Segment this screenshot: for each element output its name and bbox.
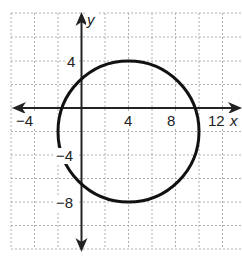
x-tick-4: 4: [124, 112, 132, 129]
graph-svg: −4 4 8 12 x y 4 −4 −8: [0, 0, 242, 256]
coordinate-graph: −4 4 8 12 x y 4 −4 −8: [0, 0, 242, 256]
x-axis-label: x: [229, 112, 238, 129]
y-tick-4: 4: [67, 53, 75, 70]
y-tick-neg8: −8: [56, 194, 73, 211]
y-tick-neg4: −4: [56, 147, 73, 164]
x-tick-8: 8: [167, 112, 175, 129]
x-tick-neg4: −4: [16, 112, 33, 129]
x-tick-12: 12: [208, 112, 225, 129]
grid: [11, 13, 242, 249]
y-axis: [76, 12, 88, 252]
